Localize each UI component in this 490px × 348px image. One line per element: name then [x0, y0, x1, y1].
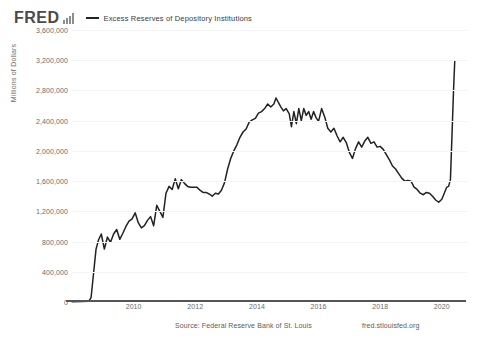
gridline	[72, 242, 468, 243]
plot-area	[72, 30, 468, 302]
gridline	[72, 151, 468, 152]
y-tick-label: 1,600,000	[14, 178, 68, 185]
source-label: Source: Federal Reserve Bank of St. Loui…	[175, 322, 312, 329]
chart-legend: Excess Reserves of Depository Institutio…	[86, 14, 252, 23]
legend-item-label: Excess Reserves of Depository Institutio…	[104, 14, 252, 23]
gridline	[72, 181, 468, 182]
x-tick-label: 2016	[311, 303, 327, 310]
source-url[interactable]: fred.stlouisfed.org	[362, 322, 420, 329]
x-tick-label: 2020	[434, 303, 450, 310]
x-tick-label: 2018	[372, 303, 388, 310]
y-tick-label: 0	[14, 299, 68, 306]
y-tick-label: 3,600,000	[14, 27, 68, 34]
y-tick-label: 2,400,000	[14, 117, 68, 124]
y-tick-label: 2,000,000	[14, 147, 68, 154]
data-series-line	[72, 30, 468, 302]
y-tick-label: 2,800,000	[14, 87, 68, 94]
y-tick-label: 800,000	[14, 238, 68, 245]
y-tick-label: 400,000	[14, 268, 68, 275]
fred-chart-figure: FRED Excess Reserves of Depository Insti…	[0, 0, 490, 348]
x-tick-label: 2010	[126, 303, 142, 310]
x-axis-line	[66, 300, 466, 302]
x-tick-label: 2012	[187, 303, 203, 310]
gridline	[72, 211, 468, 212]
gridline	[72, 60, 468, 61]
legend-color-swatch	[86, 17, 99, 19]
y-tick-label: 3,200,000	[14, 57, 68, 64]
y-axis-tick-labels: 0400,000800,0001,200,0001,600,0002,000,0…	[14, 0, 68, 348]
gridline	[72, 90, 468, 91]
gridline	[72, 121, 468, 122]
x-tick-label: 2014	[249, 303, 265, 310]
gridline	[72, 272, 468, 273]
gridline	[72, 30, 468, 31]
y-tick-label: 1,200,000	[14, 208, 68, 215]
